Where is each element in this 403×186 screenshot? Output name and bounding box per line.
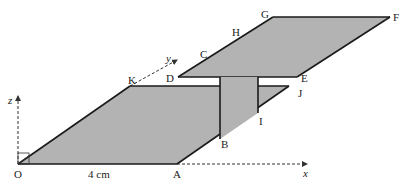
point-label-E: E (301, 72, 308, 84)
point-label-J: J (298, 87, 303, 99)
top-plane-DEFG (178, 17, 390, 77)
dimension-OA-label: 4 cm (88, 168, 110, 180)
point-label-K: K (128, 74, 136, 86)
vertical-plate (220, 77, 258, 139)
geometry-diagram: z y x O A B I J E K D C H G F 4 cm (0, 0, 403, 186)
y-axis-label: y (165, 52, 171, 64)
point-label-O: O (14, 168, 22, 180)
point-label-G: G (261, 8, 269, 20)
point-label-I: I (259, 115, 263, 127)
point-label-C: C (200, 48, 207, 60)
x-axis-label: x (302, 167, 308, 179)
point-label-D: D (166, 72, 174, 84)
point-label-F: F (393, 11, 399, 23)
point-label-B: B (221, 138, 228, 150)
point-label-A: A (173, 168, 181, 180)
point-label-H: H (232, 26, 240, 38)
z-axis-label: z (7, 94, 13, 106)
